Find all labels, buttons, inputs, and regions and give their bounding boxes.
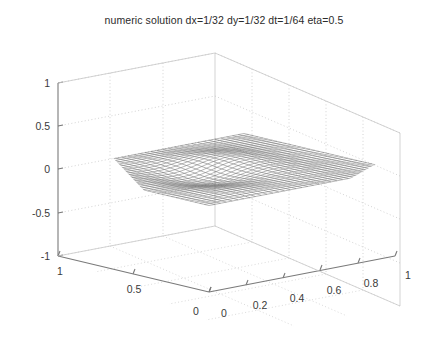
z-tick-label: 0.5	[35, 120, 50, 132]
grid-floor	[58, 226, 400, 326]
y-tick-label: 0.5	[127, 283, 142, 295]
x-tick-label: 0.2	[253, 299, 268, 311]
x-tick-label: 1	[405, 269, 411, 281]
z-tick-label: -0.5	[32, 207, 50, 219]
z-axis-line	[58, 82, 63, 256]
x-tick-label: 0.4	[290, 292, 305, 304]
z-tick-labels: 1 0.5 0 -0.5 -1	[32, 77, 50, 262]
matlab-figure-canvas: numeric solution dx=1/32 dy=1/32 dt=1/64…	[0, 0, 448, 350]
z-tick-label: 0	[44, 163, 50, 175]
x-tick-label: 0.6	[327, 284, 342, 296]
z-tick-label: 1	[44, 77, 50, 89]
x-tick-label: 0.8	[364, 277, 379, 289]
z-tick-label: -1	[41, 250, 50, 262]
x-tick-labels: 0 0.2 0.4 0.6 0.8 1	[221, 269, 411, 319]
axes-3d: 1 0.5 0 -0.5 -1 1 0.5 0 0 0.2 0.4 0.6 0.…	[0, 0, 448, 350]
surface-mesh	[58, 134, 395, 206]
x-tick-label: 0	[221, 307, 227, 319]
y-tick-label: 0	[193, 305, 199, 317]
y-tick-label: 1	[57, 265, 63, 277]
